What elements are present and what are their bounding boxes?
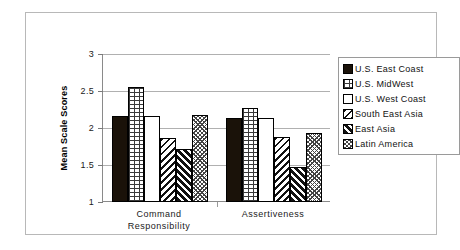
bar bbox=[306, 133, 322, 202]
crosshatch-swatch bbox=[343, 139, 353, 149]
legend-item[interactable]: U.S. East Coast bbox=[343, 61, 456, 76]
legend-item[interactable]: U.S. MidWest bbox=[343, 76, 456, 91]
bar bbox=[192, 115, 208, 202]
x-axis-category-label: CommandResponsibility bbox=[102, 208, 216, 232]
y-axis-tick bbox=[98, 165, 103, 166]
bar bbox=[242, 108, 258, 202]
bar bbox=[176, 149, 192, 202]
y-axis-tick-label: 1 bbox=[89, 197, 94, 207]
y-axis-tick-label: 2.5 bbox=[81, 86, 94, 96]
empty-swatch bbox=[343, 94, 353, 104]
y-axis-tick-label: 1.5 bbox=[81, 160, 94, 170]
y-axis-tick bbox=[98, 202, 103, 203]
y-axis-tick bbox=[98, 128, 103, 129]
solid-swatch bbox=[343, 64, 353, 74]
legend: U.S. East CoastU.S. MidWestU.S. West Coa… bbox=[338, 57, 460, 155]
legend-item-label: South East Asia bbox=[355, 109, 423, 119]
gridline bbox=[103, 54, 330, 55]
chart-frame: Mean Scale Scores 11.522.53 CommandRespo… bbox=[25, 12, 437, 235]
diagonal-forward-swatch bbox=[343, 124, 353, 134]
category-divider bbox=[217, 202, 218, 207]
plot-area: 11.522.53 bbox=[102, 54, 330, 202]
y-axis-title: Mean Scale Scores bbox=[57, 54, 71, 202]
bar bbox=[226, 118, 242, 202]
x-axis-category-label-line: Responsibility bbox=[102, 220, 216, 232]
brick-swatch bbox=[343, 79, 353, 89]
y-axis-title-label: Mean Scale Scores bbox=[59, 86, 69, 171]
bar bbox=[112, 116, 128, 202]
y-axis-tick bbox=[98, 91, 103, 92]
x-axis-category-label: Assertiveness bbox=[216, 208, 330, 220]
legend-item[interactable]: East Asia bbox=[343, 121, 456, 136]
legend-item[interactable]: U.S. West Coast bbox=[343, 91, 456, 106]
legend-item-label: U.S. East Coast bbox=[355, 64, 424, 74]
legend-item[interactable]: South East Asia bbox=[343, 106, 456, 121]
legend-item-label: U.S. West Coast bbox=[355, 94, 426, 104]
bar bbox=[160, 138, 176, 202]
diagonal-back-swatch bbox=[343, 109, 353, 119]
legend-item-label: East Asia bbox=[355, 124, 395, 134]
y-axis-tick-label: 2 bbox=[89, 123, 94, 133]
legend-item[interactable]: Latin America bbox=[343, 136, 456, 151]
x-axis-category-label-line: Assertiveness bbox=[216, 208, 330, 220]
bar bbox=[290, 167, 306, 202]
bar bbox=[258, 118, 274, 202]
legend-item-label: U.S. MidWest bbox=[355, 79, 413, 89]
bar bbox=[144, 116, 160, 202]
y-axis-tick-label: 3 bbox=[89, 49, 94, 59]
bar bbox=[128, 87, 144, 202]
x-axis-category-label-line: Command bbox=[102, 208, 216, 220]
bar bbox=[274, 137, 290, 202]
y-axis-tick bbox=[98, 54, 103, 55]
legend-item-label: Latin America bbox=[355, 139, 413, 149]
